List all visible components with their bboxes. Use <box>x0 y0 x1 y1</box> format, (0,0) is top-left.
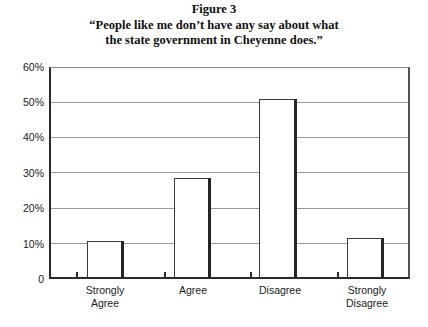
gridline-20 <box>51 208 408 209</box>
y-axis-label-50: 50% <box>0 97 44 107</box>
x-axis-label-disagree: Disagree <box>233 284 327 297</box>
y-axis-label-10: 10% <box>0 239 44 249</box>
x-axis-label-strongly-agree: Strongly Agree <box>58 284 152 309</box>
bar-disagree <box>259 99 297 277</box>
bar-strongly-disagree <box>347 238 384 277</box>
gridline-40 <box>51 137 408 138</box>
y-axis-label-0: 0 <box>0 274 44 284</box>
x-axis-label-disagree-line1: Disagree <box>233 284 327 297</box>
x-axis-tick-3 <box>250 272 252 279</box>
x-axis-label-strongly-agree-line2: Agree <box>58 297 152 310</box>
x-axis-tick-2 <box>164 272 166 279</box>
bar-strongly-agree <box>87 241 124 277</box>
x-axis-tick-4 <box>337 272 339 279</box>
plot-area <box>49 67 410 279</box>
x-axis-label-strongly-disagree-line2: Disagree <box>320 297 414 310</box>
gridline-50 <box>51 102 408 103</box>
bar-agree <box>174 178 211 277</box>
x-axis-label-strongly-disagree-line1: Strongly <box>320 284 414 297</box>
y-axis-label-60: 60% <box>0 62 44 72</box>
y-axis-label-40: 40% <box>0 132 44 142</box>
x-axis-label-agree-line1: Agree <box>146 284 240 297</box>
bar-chart: 60% 50% 40% 30% 20% 10% 0 Strongly Agree… <box>0 0 428 327</box>
x-axis-tick-1 <box>76 272 78 279</box>
x-axis-label-strongly-agree-line1: Strongly <box>58 284 152 297</box>
x-axis-label-agree: Agree <box>146 284 240 297</box>
x-axis-label-strongly-disagree: Strongly Disagree <box>320 284 414 309</box>
y-axis-label-30: 30% <box>0 168 44 178</box>
y-axis-label-20: 20% <box>0 203 44 213</box>
gridline-30 <box>51 172 408 173</box>
